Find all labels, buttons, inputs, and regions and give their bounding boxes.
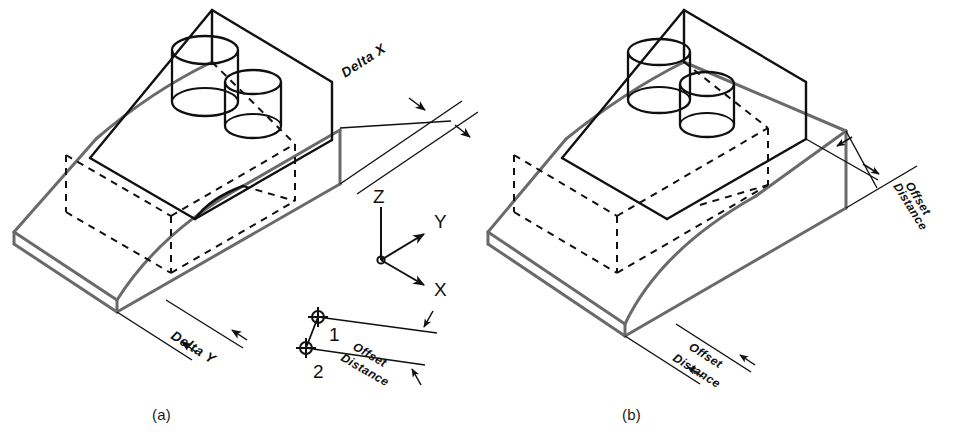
spacer-a [410,115,446,140]
hidden-lines-b [514,62,768,273]
boss2-bottom-arc-hidden-b [680,113,734,125]
hidden-upper-diag-b [514,155,617,216]
figure-canvas: Delta X Delta Y Z Y X [0,0,975,446]
hidden-right-upper-a [171,144,295,216]
panel-a-drawing: Delta X Delta Y [14,10,478,368]
offset-left-curve-a [14,139,96,232]
offset-right-ext-line [846,131,877,188]
offset-bottom-front-b [488,244,625,336]
caption-a: (a) [152,406,171,423]
top-left-ridge-a [90,10,212,158]
axis-label-z: Z [373,186,385,207]
hidden-upper-diag-a [66,155,171,216]
detail-point-connector [306,317,318,348]
top-right-ridge-a [212,10,332,82]
detail-point-1-marker [308,307,328,327]
detail-arrow-upper [424,311,433,327]
technical-drawing-svg: Delta X Delta Y Z Y X [0,0,975,446]
delta-x-label: Delta X [338,41,388,81]
panel-b-drawing: Offset Distance Offset Distance [488,10,934,391]
delta-x-arrow-2 [455,125,470,137]
boss1-bottom-arc-a [172,102,238,116]
boss2-bottom-arc-hidden-a [225,114,281,126]
boss1-bottom-arc-hidden-a [172,88,238,102]
delta-x-dimension: Delta X [338,41,478,194]
offset-distance-detail: 1 2 Offset Distance [296,307,437,389]
axis-x-line [381,260,424,285]
front-lower-edge-a [195,140,332,219]
delta-x-arrow-1 [409,98,425,110]
axis-label-y: Y [434,211,447,232]
offset-right-dim-line-1 [806,139,878,180]
left-lower-edge-b [562,158,667,219]
axis-label-x: X [434,279,447,300]
coordinate-axes: Z Y X [373,186,447,300]
hidden-lower-diag-b [514,212,617,273]
caption-b: (b) [622,406,641,423]
delta-y-dimension: Delta Y [117,300,247,368]
delta-x-ext-upper [340,121,451,128]
detail-point-2-marker [296,338,316,358]
detail-arrow-lower [412,369,421,385]
offset-distance-dimension-front: Offset Distance [625,324,755,391]
hidden-lower-diag-a [66,212,171,273]
hidden-right-lower-a [171,201,295,273]
boss2-bottom-arc-b [680,125,734,137]
boss2-top-ellipse-b [680,72,734,96]
boss2-bottom-arc-a [225,126,281,138]
top-left-ridge-b [562,10,684,158]
delta-y-label: Delta Y [168,328,219,368]
offset-top-curve-a [96,62,212,139]
offset-bottom-upper-a [14,232,117,300]
offset-bottom-front-a [14,244,117,312]
cylinder-boss-2-a [225,70,281,138]
offset-left-curve-b [488,139,566,232]
delta-x-dim-line-1 [340,101,462,184]
detail-label-1: 1 [329,324,340,345]
delta-y-arrow-2 [232,330,247,340]
hidden-tie-a [243,186,295,201]
hidden-right-lower-b [617,185,768,273]
offset-body-b [488,62,846,336]
offset-bottom-upper-b [488,232,625,324]
offset-front-arrow-2 [740,355,755,365]
delta-x-dim-line-2 [357,112,478,194]
boss1-top-ellipse-a [172,36,238,64]
detail-label-2: 2 [313,361,324,382]
offset-top-curve-b [566,62,684,139]
boss1-top-ellipse-b [628,39,690,65]
left-lower-edge-a [90,158,195,219]
offset-body-a [14,62,340,312]
offset-inner-curve-b [625,196,756,324]
axis-y-line [381,234,424,260]
